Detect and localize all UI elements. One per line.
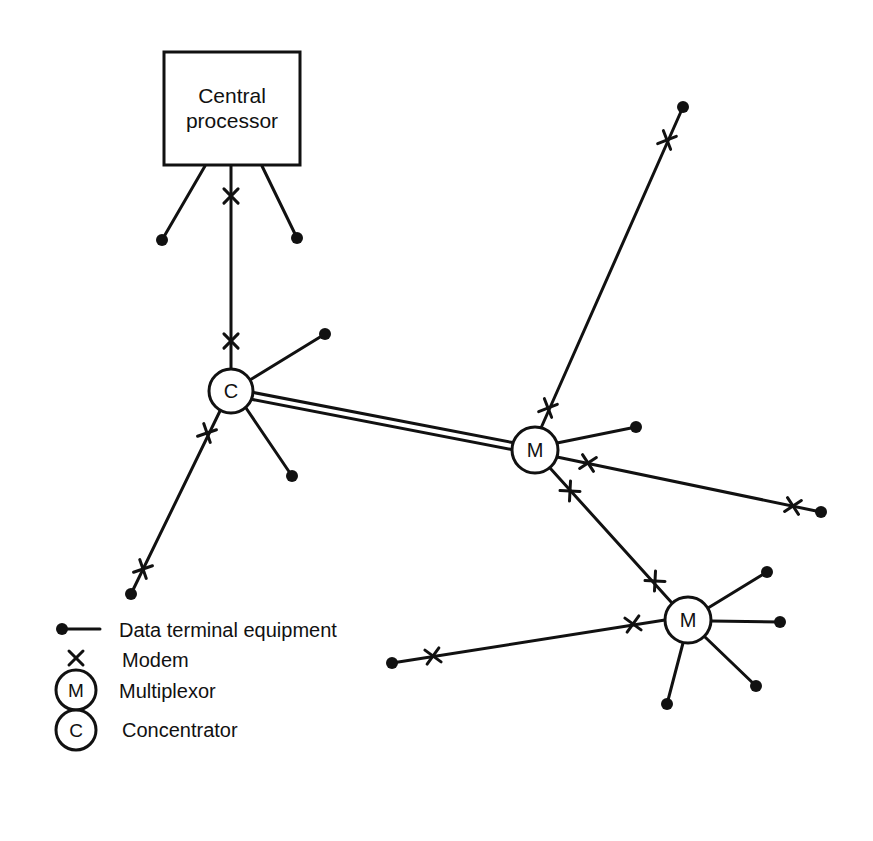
link-line	[250, 334, 325, 380]
legend-label-modem: Modem	[122, 649, 189, 671]
data-terminal-icon	[677, 101, 689, 113]
multiplexor-icon-letter: M	[68, 680, 84, 701]
data-terminal-icon	[815, 506, 827, 518]
concentrator-letter: C	[224, 380, 238, 402]
legend-item-dte: Data terminal equipment	[56, 619, 337, 641]
data-terminal-icon	[761, 566, 773, 578]
trunk-link-line	[254, 393, 513, 443]
central-processor-label-line2: processor	[186, 109, 278, 132]
link-line	[705, 637, 756, 686]
data-terminal-icon	[156, 234, 168, 246]
concentrator-node: C	[209, 369, 253, 413]
legend-item-modem: Modem	[69, 649, 189, 671]
modem-icon	[69, 651, 83, 665]
multiplexor-letter: M	[527, 439, 544, 461]
legend-item-multiplexor: M Multiplexor	[56, 670, 216, 710]
concentrator-icon-letter: C	[69, 720, 83, 741]
link-line	[246, 408, 292, 476]
modem-icon	[645, 571, 665, 591]
data-terminal-icon	[286, 470, 298, 482]
data-terminal-icon	[319, 328, 331, 340]
link-line	[557, 427, 636, 443]
link-line	[708, 572, 767, 608]
data-terminal-icon	[386, 657, 398, 669]
legend-item-concentrator: C Concentrator	[56, 710, 238, 750]
link-line	[162, 166, 205, 240]
link-line	[667, 643, 683, 704]
link-line	[557, 457, 821, 512]
link-line	[262, 166, 297, 238]
data-terminal-icon	[750, 680, 762, 692]
legend-label-multiplexor: Multiplexor	[119, 680, 216, 702]
data-terminal-icon	[291, 232, 303, 244]
legend: Data terminal equipment Modem M Multiple…	[56, 619, 337, 750]
multiplexor-node: M	[665, 597, 711, 643]
central-processor: Central processor	[164, 52, 300, 165]
link-line	[131, 411, 220, 594]
data-terminal-icon	[774, 616, 786, 628]
trunk-link-line	[252, 399, 511, 449]
legend-label-concentrator: Concentrator	[122, 719, 238, 741]
modem-icon	[134, 560, 153, 579]
nodes-layer: CMM	[209, 369, 711, 643]
central-processor-label-line1: Central	[198, 84, 266, 107]
data-terminal-icon	[630, 421, 642, 433]
legend-label-dte: Data terminal equipment	[119, 619, 337, 641]
network-diagram: Central processor CMM Data terminal equi…	[0, 0, 873, 841]
link-line	[541, 107, 683, 428]
link-line	[711, 621, 780, 622]
data-terminal-icon	[125, 588, 137, 600]
multiplexor-node: M	[512, 427, 558, 473]
multiplexor-letter: M	[680, 609, 697, 631]
data-terminal-icon	[661, 698, 673, 710]
